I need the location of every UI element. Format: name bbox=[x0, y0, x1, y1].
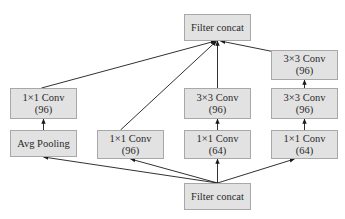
branch3-1x1-conv-node: 1×1 Conv (64) bbox=[184, 130, 251, 159]
branch1-1x1-conv-node: 1×1 Conv (96) bbox=[10, 88, 77, 119]
node-label: 1×1 Conv bbox=[110, 133, 152, 145]
edge-input_concat-to-b2_conv bbox=[131, 159, 218, 183]
node-label: 3×3 Conv bbox=[284, 92, 326, 104]
edge-group bbox=[42, 41, 305, 183]
node-label: Filter concat bbox=[191, 22, 244, 34]
branch1-avg-pooling-node: Avg Pooling bbox=[10, 130, 77, 157]
node-label: 3×3 Conv bbox=[284, 53, 326, 65]
edge-b1_conv-to-output_concat bbox=[42, 41, 216, 88]
edge-input_concat-to-b4_conv1 bbox=[218, 159, 295, 183]
branch4-3x3-conv-middle-node: 3×3 Conv (96) bbox=[271, 88, 338, 119]
branch4-3x3-conv-top-node: 3×3 Conv (96) bbox=[271, 50, 338, 80]
branch2-1x1-conv-node: 1×1 Conv (96) bbox=[97, 130, 164, 159]
output-filter-concat-node: Filter concat bbox=[184, 14, 251, 41]
node-label: 3×3 Conv bbox=[197, 92, 239, 104]
input-filter-concat-node: Filter concat bbox=[184, 183, 251, 210]
node-filters: (96) bbox=[296, 104, 314, 116]
node-filters: (64) bbox=[296, 145, 314, 157]
node-label: Avg Pooling bbox=[17, 138, 70, 150]
node-label: 1×1 Conv bbox=[284, 133, 326, 145]
edge-input_concat-to-b1_pool bbox=[44, 157, 218, 183]
node-filters: (96) bbox=[35, 104, 53, 116]
node-label: Filter concat bbox=[191, 191, 244, 203]
inception-module-diagram: Filter concat 3×3 Conv (96) 1×1 Conv (96… bbox=[0, 0, 345, 219]
branch3-3x3-conv-node: 3×3 Conv (96) bbox=[184, 88, 251, 119]
node-filters: (96) bbox=[122, 145, 140, 157]
branch4-1x1-conv-node: 1×1 Conv (64) bbox=[271, 130, 338, 159]
node-label: 1×1 Conv bbox=[23, 92, 65, 104]
node-filters: (96) bbox=[209, 104, 227, 116]
edge-b4_conv3b-to-output_concat bbox=[221, 41, 276, 52]
node-label: 1×1 Conv bbox=[197, 133, 239, 145]
node-filters: (96) bbox=[296, 65, 314, 77]
node-filters: (64) bbox=[209, 145, 227, 157]
